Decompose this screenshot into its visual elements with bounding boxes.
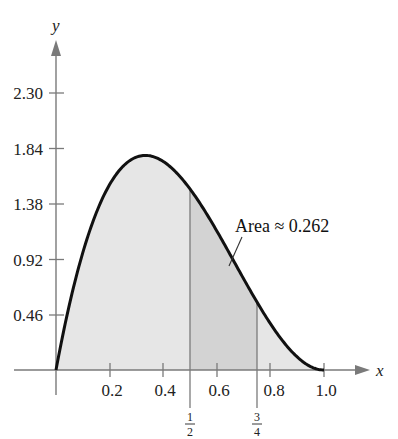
y-tick-label: 2.30 — [13, 84, 43, 103]
x-tick-label: 0.8 — [263, 381, 284, 400]
x-tick-label: 1.0 — [315, 381, 336, 400]
svg-text:3: 3 — [254, 410, 260, 424]
x-axis-label: x — [375, 361, 384, 380]
svg-text:1: 1 — [187, 410, 193, 424]
x-tick-label: 0.4 — [154, 381, 176, 400]
y-tick-label: 0.92 — [13, 251, 43, 270]
x-tick-label: 0.2 — [101, 381, 122, 400]
x-axis-arrow-icon — [355, 365, 370, 375]
svg-text:2: 2 — [187, 425, 193, 439]
x-tick-label: 0.6 — [208, 381, 229, 400]
svg-text:4: 4 — [254, 425, 260, 439]
y-axis-arrow-icon — [51, 40, 61, 56]
chart: 2.30 1.84 1.38 0.92 0.46 0.2 0.4 0.6 0.8… — [0, 0, 398, 439]
y-axis-label: y — [50, 16, 60, 35]
y-tick-label: 1.84 — [13, 140, 43, 159]
fraction-label-half: 1 2 — [185, 410, 195, 439]
y-tick-label: 0.46 — [13, 306, 43, 325]
fraction-label-three-quarters: 3 4 — [252, 410, 262, 439]
area-annotation: Area ≈ 0.262 — [235, 216, 329, 236]
y-tick-label: 1.38 — [13, 195, 43, 214]
